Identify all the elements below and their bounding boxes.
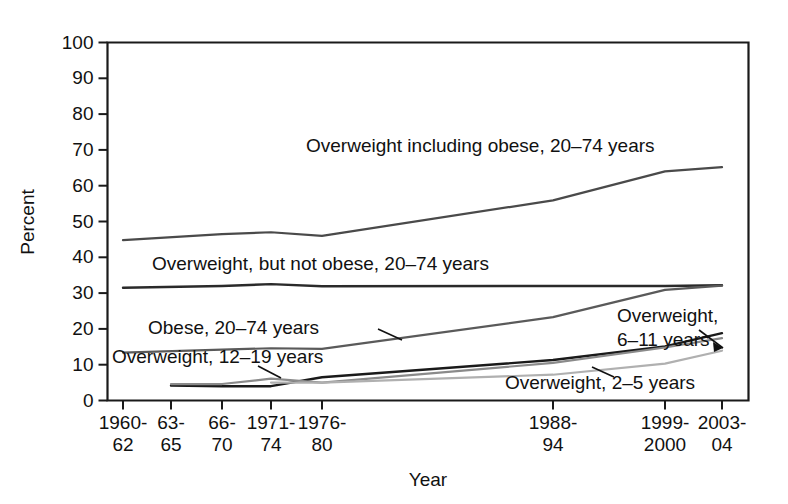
series-annotation-label: Overweight, 2–5 years: [505, 372, 695, 393]
x-axis-ticks: [123, 401, 722, 410]
x-tick-label: 1988-: [529, 412, 578, 433]
y-tick-label: 20: [72, 318, 93, 339]
y-tick-label: 0: [83, 390, 94, 411]
series-line-overweight-but-not-obese-20-74-years: [123, 284, 722, 288]
x-tick-label: 1976-: [298, 412, 347, 433]
x-tick-label: 65: [160, 434, 181, 455]
x-tick-label: 74: [260, 434, 282, 455]
leader-overweight-12-19: [258, 366, 281, 378]
x-tick-label: 80: [311, 434, 332, 455]
x-tick-label: 2003-: [698, 412, 747, 433]
series-line-overweight-including-obese-20-74-years: [123, 167, 722, 240]
y-tick-label: 30: [72, 282, 93, 303]
y-tick-label: 70: [72, 139, 93, 160]
series-annotation-label: Overweight, but not obese, 20–74 years: [152, 253, 489, 274]
y-tick-label: 80: [72, 103, 93, 124]
y-tick-label: 90: [72, 67, 93, 88]
x-tick-label: 94: [542, 434, 564, 455]
x-tick-label: 2000: [644, 434, 686, 455]
x-tick-label: 63-: [157, 412, 184, 433]
series-annotation-label: 6–11 years: [617, 329, 710, 350]
chart-figure: 0102030405060708090100 1960-6263-6566-70…: [0, 0, 788, 504]
x-tick-label: 1999-: [641, 412, 690, 433]
series-annotation-label: Overweight,: [617, 305, 718, 326]
y-tick-label: 40: [72, 246, 93, 267]
series-annotation-label: Obese, 20–74 years: [148, 317, 319, 338]
leader-obese: [378, 329, 402, 340]
obesity-trend-line-chart: 0102030405060708090100 1960-6263-6566-70…: [0, 0, 788, 504]
x-tick-label: 1971-: [247, 412, 296, 433]
y-tick-label: 50: [72, 211, 93, 232]
series-annotation-label: Overweight, 12–19 years: [112, 346, 323, 367]
x-axis-tick-labels: 1960-6263-6566-701971-741976-801988-9419…: [99, 412, 747, 455]
y-axis-ticks: [99, 43, 108, 401]
y-axis-title: Percent: [17, 189, 38, 255]
x-tick-label: 70: [211, 434, 232, 455]
y-tick-label: 100: [62, 32, 94, 53]
y-tick-label: 10: [72, 354, 93, 375]
y-tick-label: 60: [72, 175, 93, 196]
x-tick-label: 66-: [208, 412, 235, 433]
x-tick-label: 62: [112, 434, 133, 455]
x-tick-label: 04: [711, 434, 733, 455]
x-axis-title: Year: [409, 469, 448, 490]
series-annotation-label: Overweight including obese, 20–74 years: [306, 135, 655, 156]
x-tick-label: 1960-: [99, 412, 148, 433]
series-annotations: Overweight including obese, 20–74 yearsO…: [112, 135, 718, 393]
y-axis-tick-labels: 0102030405060708090100: [62, 32, 94, 411]
